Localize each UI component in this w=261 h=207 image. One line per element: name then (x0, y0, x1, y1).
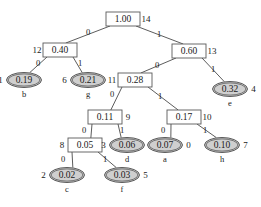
edge-label-bit: 0 (82, 125, 86, 135)
node-index-label: 6 (62, 75, 67, 85)
leaf-symbol-label: b (22, 89, 26, 99)
edge-label-bit: 0 (36, 58, 40, 68)
node-value: 0.03 (114, 170, 131, 180)
node-index-label: 1 (0, 75, 3, 85)
internal-node: 0.058 (60, 138, 102, 152)
node-index-label: 5 (143, 170, 148, 180)
node-index-label: 13 (208, 46, 218, 56)
edge-label-bit: 1 (103, 154, 107, 164)
node-value: 0.06 (119, 140, 136, 150)
edge-label-bit: 1 (78, 58, 82, 68)
leaf-node: 0.191b (0, 73, 42, 100)
leaf-symbol-label: e (228, 98, 232, 108)
node-index-label: 7 (243, 140, 248, 150)
node-value: 0.19 (16, 75, 33, 85)
leaf-node: 0.022c (41, 168, 84, 195)
internal-node: 0.1710 (167, 110, 212, 124)
node-value: 0.32 (222, 84, 239, 94)
internal-node: 0.6013 (172, 44, 217, 58)
internal-node: 0.4012 (33, 43, 78, 57)
node-value: 0.05 (77, 140, 94, 150)
edge-label-bit: 0 (161, 125, 165, 135)
edge-label-bit: 0 (155, 60, 159, 70)
leaf-symbol-label: c (65, 184, 69, 194)
edge-label-bit: 1 (203, 125, 207, 135)
node-value: 0.21 (80, 75, 97, 85)
edge-label-bit: 0 (110, 89, 114, 99)
node-index-label: 12 (33, 45, 42, 55)
huffman-tree-diagram: 01010101010101 1.00140.40120.60130.191b0… (0, 0, 261, 207)
leaf-node: 0.107h (205, 138, 249, 165)
leaf-symbol-label: h (220, 154, 225, 164)
node-value: 0.28 (127, 75, 144, 85)
node-value: 0.07 (157, 140, 174, 150)
internal-node: 0.2811 (108, 73, 152, 87)
node-value: 0.40 (52, 45, 69, 55)
node-index-label: 3 (101, 140, 106, 150)
edge-label-bit: 1 (120, 125, 124, 135)
node-index-label: 11 (108, 75, 117, 85)
node-value: 1.00 (115, 14, 132, 24)
node-index-label: 8 (60, 140, 65, 150)
node-index-label: 4 (251, 84, 256, 94)
tree-edge (72, 152, 73, 168)
node-value: 0.17 (176, 112, 193, 122)
tree-edge (148, 87, 178, 110)
leaf-symbol-label: f (121, 184, 124, 194)
internal-node: 1.0014 (106, 12, 151, 26)
node-index-label: 9 (126, 112, 131, 122)
node-value: 0.60 (181, 46, 198, 56)
node-value: 0.10 (214, 140, 231, 150)
node-value: 0.02 (59, 170, 76, 180)
node-value: 0.11 (97, 112, 114, 122)
edge-label-bit: 1 (158, 91, 162, 101)
leaf-node: 0.324e (213, 82, 257, 109)
tree-edge (91, 124, 92, 138)
node-index-label: 14 (142, 14, 152, 24)
leaf-symbol-label: d (125, 154, 130, 164)
edge-label-bit: 1 (157, 29, 161, 39)
leaf-node: 0.070a (148, 138, 192, 165)
node-index-label: 2 (41, 170, 46, 180)
internal-node: 0.119 (88, 110, 131, 124)
leaf-node: 0.216g (62, 73, 105, 100)
tree-canvas: 01010101010101 1.00140.40120.60130.191b0… (0, 0, 261, 207)
leaf-node: 0.035f (105, 168, 149, 195)
leaf-symbol-label: g (86, 89, 91, 99)
edge-label-bit: 0 (61, 154, 65, 164)
node-index-label: 0 (186, 140, 191, 150)
edge-label-bit: 1 (211, 64, 215, 74)
nodes-layer: 1.00140.40120.60130.191b0.216g0.28110.32… (0, 12, 256, 194)
edge-label-bit: 0 (86, 27, 90, 37)
leaf-symbol-label: a (163, 154, 167, 164)
node-index-label: 10 (203, 112, 213, 122)
